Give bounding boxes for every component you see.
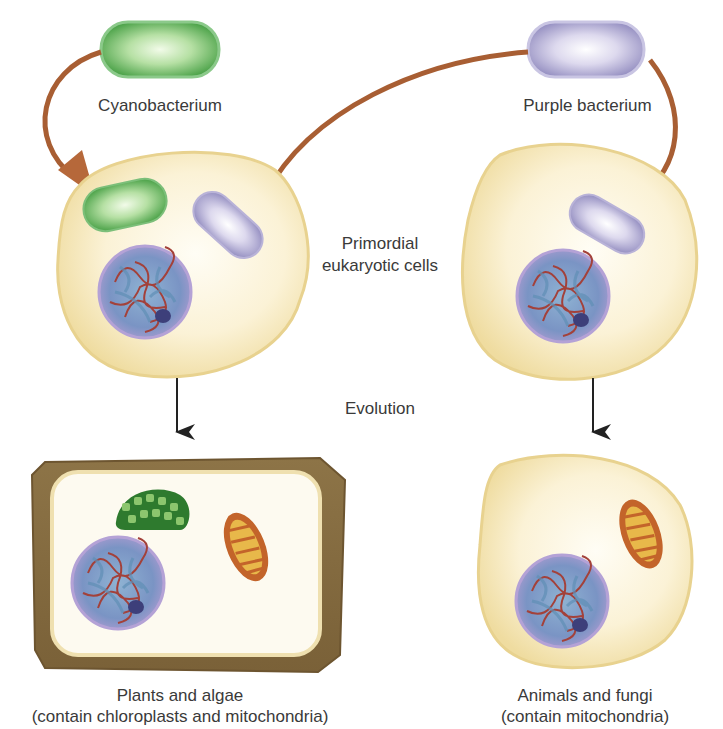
nucleus-right [517,250,609,342]
plants-title: Plants and algae [30,685,330,706]
nucleus-animal [516,555,608,647]
purple-bacterium-label: Purple bacterium [500,95,675,116]
animals-subtitle: (contain mitochondria) [465,706,705,727]
cyanobacterium-icon [101,22,219,77]
plants-subtitle: (contain chloroplasts and mitochondria) [0,706,360,727]
primordial-label-line1: Primordial [300,233,460,254]
animals-title: Animals and fungi [465,685,705,706]
nucleus-plant [72,537,164,629]
nucleus-left [99,246,191,338]
primordial-label-line2: eukaryotic cells [300,255,460,276]
cyanobacterium-label: Cyanobacterium [80,95,240,116]
purple-bacterium-icon [528,22,644,77]
evolution-label: Evolution [300,398,460,419]
